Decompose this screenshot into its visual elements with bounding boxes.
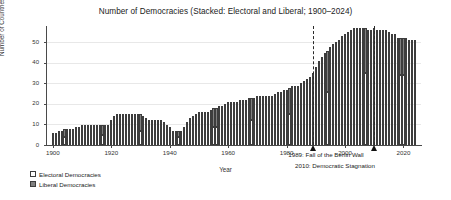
bar-segment-electoral	[110, 133, 112, 145]
bar-stack	[175, 131, 177, 145]
bar-stack	[309, 77, 311, 145]
bar-stack	[58, 131, 60, 145]
x-tick	[53, 145, 54, 148]
bar-segment-liberal	[306, 79, 308, 110]
bar-stack	[224, 104, 226, 145]
bar-stack	[379, 30, 381, 145]
bar-segment-liberal	[157, 120, 159, 132]
legend-label-electoral: Electoral Democracies	[39, 171, 101, 178]
bar-segment-liberal	[402, 38, 404, 75]
bar-stack	[183, 127, 185, 145]
bar-segment-liberal	[186, 122, 188, 132]
x-tick	[287, 145, 288, 148]
bar-stack	[107, 124, 109, 145]
bar-segment-liberal	[201, 112, 203, 128]
bar-stack	[341, 36, 343, 145]
bar-segment-electoral	[145, 133, 147, 145]
x-tick	[228, 145, 229, 148]
bar-segment-electoral	[288, 114, 290, 145]
event-label-2010: 2010: Democratic Stagnation	[295, 162, 375, 169]
bar-stack	[212, 108, 214, 145]
bar-stack	[411, 40, 413, 145]
bar-stack	[142, 116, 144, 145]
bar-segment-liberal	[122, 114, 124, 130]
bar-stack	[151, 120, 153, 145]
bar-stack	[364, 28, 366, 145]
bar-stack	[230, 102, 232, 145]
bar-segment-liberal	[315, 67, 317, 102]
bar-segment-liberal	[195, 114, 197, 128]
bar-segment-liberal	[183, 127, 185, 135]
bar-segment-electoral	[318, 98, 320, 145]
bar-stack	[414, 40, 416, 145]
bar-segment-electoral	[297, 112, 299, 145]
bar-segment-liberal	[326, 51, 328, 92]
bar-segment-liberal	[69, 129, 71, 137]
bar-segment-liberal	[411, 40, 413, 75]
bar-segment-liberal	[353, 28, 355, 75]
bar-segment-electoral	[142, 131, 144, 145]
bar-stack	[84, 124, 86, 145]
bar-segment-electoral	[359, 73, 361, 145]
bar-segment-electoral	[69, 137, 71, 145]
bar-segment-electoral	[233, 122, 235, 145]
bar-stack	[215, 108, 217, 145]
bar-segment-electoral	[256, 118, 258, 145]
bar-segment-liberal	[376, 30, 378, 71]
bar-stack	[131, 114, 133, 145]
bar-segment-electoral	[63, 137, 65, 145]
bar-stack	[236, 102, 238, 145]
bar-stack	[318, 61, 320, 145]
x-tick	[111, 145, 112, 148]
bar-stack	[335, 42, 337, 145]
bar-stack	[239, 100, 241, 145]
bar-segment-liberal	[227, 102, 229, 123]
bar-segment-liberal	[119, 114, 121, 130]
bar-segment-liberal	[250, 98, 252, 121]
bar-stack	[402, 38, 404, 145]
bar-segment-liberal	[256, 96, 258, 119]
bar-segment-electoral	[116, 131, 118, 145]
bar-stack	[134, 114, 136, 145]
y-tick-label: 50	[21, 39, 39, 45]
bar-segment-electoral	[180, 137, 182, 145]
y-tick	[44, 83, 47, 84]
bar-stack	[169, 127, 171, 145]
bar-stack	[227, 102, 229, 145]
bar-segment-electoral	[96, 135, 98, 145]
bar-segment-liberal	[262, 96, 264, 119]
bar-stack	[391, 34, 393, 145]
bar-stack	[163, 122, 165, 145]
bar-stack	[288, 88, 290, 145]
bar-segment-electoral	[166, 135, 168, 145]
bar-stack	[166, 124, 168, 145]
bar-stack	[367, 30, 369, 145]
bar-segment-electoral	[291, 112, 293, 145]
bar-segment-electoral	[283, 114, 285, 145]
bar-segment-electoral	[242, 120, 244, 145]
y-tick	[44, 124, 47, 125]
bar-stack	[52, 133, 54, 145]
bar-stack	[262, 96, 264, 145]
bar-stack	[256, 96, 258, 145]
bar-segment-electoral	[268, 118, 270, 145]
bar-stack	[405, 38, 407, 145]
bar-segment-liberal	[382, 30, 384, 71]
bar-segment-liberal	[75, 127, 77, 137]
bar-stack	[78, 127, 80, 145]
bar-segment-electoral	[224, 122, 226, 145]
bar-segment-liberal	[370, 30, 372, 73]
bar-stack	[125, 114, 127, 145]
bar-stack	[399, 38, 401, 145]
bar-segment-liberal	[391, 34, 393, 73]
bar-segment-liberal	[93, 125, 95, 135]
bar-stack	[268, 96, 270, 145]
bar-stack	[315, 67, 317, 145]
y-tick	[44, 104, 47, 105]
bar-segment-liberal	[192, 116, 194, 130]
bar-segment-liberal	[134, 114, 136, 130]
bar-stack	[116, 114, 118, 145]
bar-segment-liberal	[277, 92, 279, 117]
bar-segment-electoral	[215, 127, 217, 145]
bar-segment-liberal	[359, 28, 361, 73]
